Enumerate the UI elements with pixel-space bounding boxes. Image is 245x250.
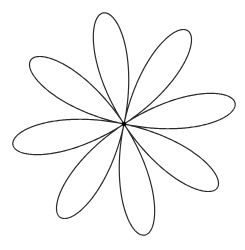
rose-curve-figure [0, 0, 245, 250]
rose-center-point [122, 122, 126, 126]
